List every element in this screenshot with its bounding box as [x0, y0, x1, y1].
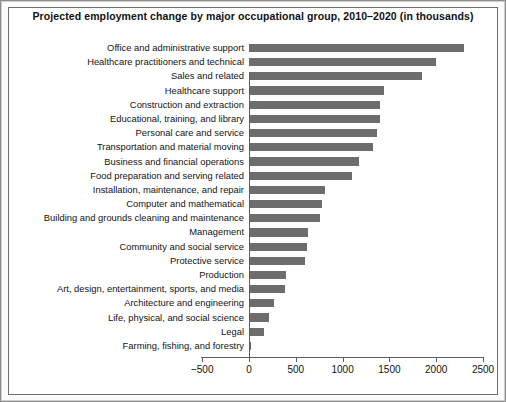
category-label: Legal — [23, 325, 249, 339]
x-axis: −50005001000150020002500 — [249, 357, 493, 358]
category-label: Installation, maintenance, and repair — [23, 183, 249, 197]
bar — [249, 143, 373, 151]
category-label: Healthcare practitioners and technical — [23, 55, 249, 69]
x-axis-tick — [202, 357, 203, 362]
bar — [249, 172, 352, 180]
x-axis-tick-label: 2500 — [472, 364, 494, 375]
category-label: Transportation and material moving — [23, 140, 249, 154]
bar-row — [249, 183, 493, 197]
bar — [249, 328, 264, 336]
bar — [249, 115, 380, 123]
category-label: Personal care and service — [23, 126, 249, 140]
bar — [249, 58, 436, 66]
x-axis-tick — [483, 357, 484, 362]
x-axis-tick — [436, 357, 437, 362]
category-label: Production — [23, 268, 249, 282]
category-label: Food preparation and serving related — [23, 169, 249, 183]
category-label: Sales and related — [23, 69, 249, 83]
category-label: Construction and extraction — [23, 98, 249, 112]
x-axis-tick-label: 0 — [246, 364, 252, 375]
bar-row — [249, 126, 493, 140]
bar — [249, 86, 384, 94]
bar-row — [249, 98, 493, 112]
category-label: Office and administrative support — [23, 41, 249, 55]
bar — [249, 186, 325, 194]
bar-row — [249, 112, 493, 126]
x-axis-tick — [389, 357, 390, 362]
bar — [249, 101, 380, 109]
plot-area: Office and administrative supportHealthc… — [23, 35, 493, 361]
bar — [249, 72, 422, 80]
bar-row — [249, 282, 493, 296]
bar-row — [249, 84, 493, 98]
x-axis-tick-label: 1500 — [378, 364, 400, 375]
zero-baseline — [249, 73, 250, 358]
category-label: Educational, training, and library — [23, 112, 249, 126]
category-label: Building and grounds cleaning and mainte… — [23, 211, 249, 225]
category-label: Healthcare support — [23, 84, 249, 98]
bar-row — [249, 155, 493, 169]
x-axis-tick-label: −500 — [191, 364, 214, 375]
bar — [249, 285, 285, 293]
category-label: Art, design, entertainment, sports, and … — [23, 282, 249, 296]
bar — [249, 313, 269, 321]
category-label: Architecture and engineering — [23, 296, 249, 310]
x-axis-tick-label: 500 — [287, 364, 304, 375]
x-axis-tick-label: 1000 — [331, 364, 353, 375]
bar-row — [249, 254, 493, 268]
bar-row — [249, 69, 493, 83]
bar — [249, 157, 359, 165]
category-label: Business and financial operations — [23, 155, 249, 169]
bar — [249, 44, 464, 52]
bar — [249, 129, 377, 137]
x-axis-tick — [343, 357, 344, 362]
x-axis-tick — [296, 357, 297, 362]
bar — [249, 271, 286, 279]
bar — [249, 214, 320, 222]
chart-figure: Projected employment change by major occ… — [0, 0, 506, 402]
bar-row — [249, 211, 493, 225]
bar-row — [249, 268, 493, 282]
bar-row — [249, 55, 493, 69]
category-label: Farming, fishing, and forestry — [23, 339, 249, 353]
bar — [249, 200, 322, 208]
bar-row — [249, 325, 493, 339]
bar-row — [249, 140, 493, 154]
bar-row — [249, 240, 493, 254]
bar — [249, 228, 308, 236]
category-label: Management — [23, 225, 249, 239]
x-axis-tick — [249, 357, 250, 362]
bar-row — [249, 197, 493, 211]
bar-row — [249, 169, 493, 183]
bar-row — [249, 225, 493, 239]
chart-title: Projected employment change by major occ… — [1, 10, 505, 22]
x-axis-tick-label: 2000 — [425, 364, 447, 375]
bar — [249, 299, 274, 307]
category-label: Protective service — [23, 254, 249, 268]
bar-row — [249, 311, 493, 325]
category-label: Community and social service — [23, 240, 249, 254]
category-label: Computer and mathematical — [23, 197, 249, 211]
bar-row — [249, 339, 493, 353]
bar — [249, 257, 305, 265]
bars-container — [249, 41, 493, 354]
bar — [249, 243, 307, 251]
bar-row — [249, 296, 493, 310]
bar-row — [249, 41, 493, 55]
category-axis-labels: Office and administrative supportHealthc… — [23, 41, 249, 353]
category-label: Life, physical, and social science — [23, 311, 249, 325]
